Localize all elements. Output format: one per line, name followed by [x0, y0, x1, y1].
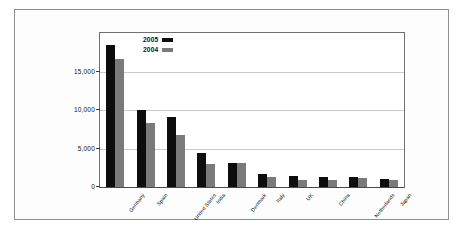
legend-label-2004: 2004 [143, 46, 158, 53]
legend-entry-2005: 2005 [143, 36, 173, 43]
y-tick-mark-10000 [96, 109, 100, 110]
y-axis-tick-labels: 05,00010,00015,000 [63, 32, 95, 188]
y-tick-label-10000: 10,000 [74, 106, 95, 113]
bar [319, 177, 328, 187]
y-tick-mark-5000 [96, 148, 100, 149]
bar [328, 180, 337, 187]
black-swatch-icon [162, 38, 173, 42]
bar [137, 110, 146, 187]
bar [380, 179, 389, 187]
figure-outer-frame: Capacity (MW) 05,00010,00015,000 2005 20… [14, 9, 449, 220]
bar-group [161, 117, 191, 187]
y-tick-label-0: 0 [91, 183, 95, 190]
bar-group [100, 45, 130, 187]
y-tick-label-5000: 5,000 [78, 144, 95, 151]
bar-group [222, 163, 252, 187]
y-tick-mark-0 [96, 186, 100, 187]
bar-group [191, 153, 221, 187]
bar [258, 174, 267, 187]
bar-group [252, 174, 282, 187]
y-tick-mark-15000 [96, 71, 100, 72]
bar-group [313, 177, 343, 187]
bar [146, 123, 155, 187]
plot-frame [99, 32, 405, 188]
bar [176, 135, 185, 187]
bar-group [130, 110, 160, 187]
bar [206, 164, 215, 187]
gridline-0 [100, 187, 404, 188]
gridline-15000 [100, 72, 404, 73]
plot-area [100, 33, 404, 187]
bar [389, 180, 398, 187]
bar-group [282, 176, 312, 187]
x-tick-label: India [215, 192, 227, 205]
x-tick-label: Netherlands [374, 192, 397, 219]
legend-label-2005: 2005 [143, 36, 158, 43]
bar [267, 177, 276, 187]
bar [349, 177, 358, 187]
bar-group [374, 179, 404, 187]
bar-group [343, 177, 373, 187]
bar [289, 176, 298, 187]
bar [228, 163, 237, 187]
chart-legend: 2005 2004 [143, 36, 173, 53]
x-tick-label: Spain [155, 192, 168, 207]
y-tick-label-15000: 15,000 [74, 67, 95, 74]
x-tick-label: Italy [275, 192, 286, 204]
x-tick-label: Germany [128, 192, 146, 213]
bar [106, 45, 115, 187]
bar [237, 163, 246, 187]
bar [197, 153, 206, 187]
bar [115, 59, 124, 187]
x-tick-label: Denmark [249, 192, 267, 213]
bar [298, 180, 307, 187]
x-tick-label: United States [192, 192, 217, 221]
bar [167, 117, 176, 187]
x-tick-label: UK [304, 192, 313, 202]
legend-entry-2004: 2004 [143, 46, 173, 53]
gray-swatch-icon [162, 48, 173, 52]
x-tick-label: Japan [398, 192, 412, 207]
x-tick-label: China [337, 192, 350, 207]
bar [358, 178, 367, 187]
